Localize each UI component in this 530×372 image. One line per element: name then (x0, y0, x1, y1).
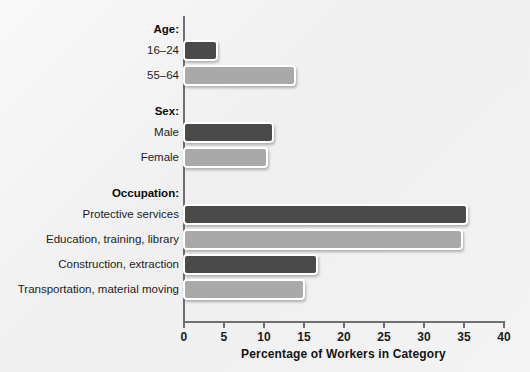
x-tick (383, 321, 385, 328)
bar (183, 40, 218, 61)
x-tick-label: 35 (457, 330, 471, 344)
x-tick-label: 25 (377, 330, 391, 344)
bar (183, 254, 318, 275)
bar-chart: 0510152025303540 Age:16–2455–64Sex:MaleF… (0, 0, 530, 372)
group-header-sex: Sex: (0, 104, 179, 118)
x-tick (183, 321, 185, 328)
category-label: Transportation, material moving (0, 283, 179, 295)
x-tick-label: 5 (221, 330, 228, 344)
category-label: Male (0, 126, 179, 138)
x-tick (463, 321, 465, 328)
x-tick (303, 321, 305, 328)
x-tick (423, 321, 425, 328)
x-tick-label: 30 (417, 330, 431, 344)
x-tick-label: 10 (257, 330, 271, 344)
category-label: Education, training, library (0, 233, 179, 245)
bar (183, 279, 305, 300)
category-label: 16–24 (0, 44, 179, 56)
x-tick-label: 40 (497, 330, 511, 344)
x-tick-label: 15 (297, 330, 311, 344)
x-tick (503, 321, 505, 328)
bar (183, 122, 274, 143)
category-label: Protective services (0, 208, 179, 220)
x-tick (343, 321, 345, 328)
x-tick (223, 321, 225, 328)
category-label: Female (0, 151, 179, 163)
y-axis-line (183, 16, 185, 322)
x-tick (263, 321, 265, 328)
group-header-age: Age: (0, 22, 179, 36)
bar (183, 204, 468, 225)
bar (183, 65, 296, 86)
bar (183, 147, 268, 168)
x-axis-title: Percentage of Workers in Category (183, 347, 504, 361)
bar (183, 229, 463, 250)
x-tick-label: 20 (337, 330, 351, 344)
x-tick-label: 0 (181, 330, 188, 344)
category-label: 55–64 (0, 69, 179, 81)
group-header-occupation: Occupation: (0, 186, 179, 200)
category-label: Construction, extraction (0, 258, 179, 270)
